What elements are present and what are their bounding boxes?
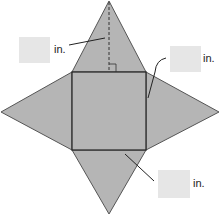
answer-box-bottom[interactable]: [158, 170, 190, 198]
unit-label: in.: [193, 177, 205, 189]
answer-box-slant[interactable]: [19, 37, 50, 63]
unit-label: in.: [203, 52, 215, 64]
unit-label: in.: [54, 43, 66, 55]
answer-box-side[interactable]: [170, 46, 201, 72]
right-triangle: [146, 72, 219, 150]
left-triangle: [1, 72, 72, 150]
top-triangle: [72, 1, 146, 72]
bottom-triangle: [72, 150, 146, 214]
base-square: [72, 72, 146, 150]
